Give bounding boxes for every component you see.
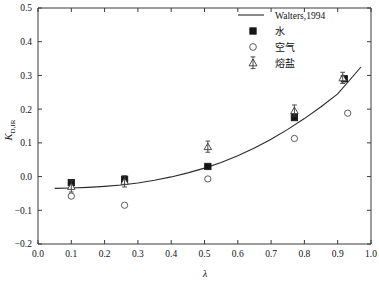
x-tick-label: 0.3: [132, 249, 144, 259]
y-tick-label: 0.5: [20, 3, 32, 13]
x-tick-label: 0.4: [165, 249, 177, 259]
chart-figure: 0.00.10.20.30.40.50.60.70.80.91.0 −0.2−0…: [0, 0, 379, 281]
x-tick-label: 0.9: [332, 249, 344, 259]
y-tick-label: −0.2: [15, 239, 32, 249]
x-tick-label: 0.7: [265, 249, 277, 259]
y-tick-label: −0.1: [15, 206, 32, 216]
y-tick-label: 0.1: [20, 138, 32, 148]
legend-label: 空气: [275, 41, 295, 53]
marker-filled-square: [250, 28, 256, 34]
chart-background: [0, 0, 379, 281]
legend-label: Walters,1994: [275, 11, 325, 21]
x-tick-label: 0.8: [298, 249, 310, 259]
marker-open-circle: [291, 135, 297, 141]
x-tick-label: 0.6: [232, 249, 244, 259]
scatter-plot: 0.00.10.20.30.40.50.60.70.80.91.0 −0.2−0…: [0, 0, 379, 281]
legend-label: 水: [275, 26, 285, 37]
x-tick-label: 1.0: [365, 249, 377, 259]
x-tick-label: 0.5: [199, 249, 211, 259]
marker-open-circle: [345, 110, 351, 116]
marker-open-circle: [68, 193, 74, 199]
y-tick-label: 0.2: [20, 105, 32, 115]
marker-filled-square: [205, 163, 211, 169]
x-tick-label: 0.1: [65, 249, 77, 259]
marker-open-circle: [250, 44, 257, 51]
y-tick-label: 0.4: [20, 37, 32, 47]
y-tick-label: 0.0: [20, 172, 32, 182]
x-axis-title: λ: [202, 268, 208, 279]
legend-label: 熔盐: [275, 57, 295, 69]
y-tick-label: 0.3: [20, 71, 32, 81]
marker-open-circle: [121, 202, 127, 208]
marker-open-circle: [205, 176, 211, 182]
x-tick-label: 0.2: [99, 249, 111, 259]
x-tick-label: 0.0: [32, 249, 44, 259]
